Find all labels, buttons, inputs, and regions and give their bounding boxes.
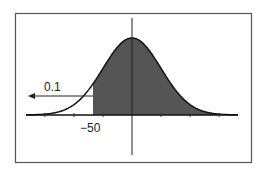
normal-distribution-chart: 0.1 −50 (0, 0, 262, 172)
tail-probability-label: 0.1 (44, 80, 61, 94)
cutoff-label: −50 (80, 121, 101, 135)
